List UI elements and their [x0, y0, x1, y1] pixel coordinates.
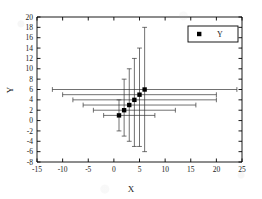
x-tick-label: 5	[138, 165, 142, 174]
x-tick-label: -15	[32, 165, 42, 174]
legend-box[interactable]	[188, 26, 238, 42]
data-point-marker	[142, 87, 146, 91]
data-point-marker	[132, 98, 136, 102]
x-tick-label: -10	[58, 165, 68, 174]
x-tick-label: 10	[161, 165, 169, 174]
y-tick-label: -4	[27, 137, 33, 146]
x-tick-label: 20	[213, 165, 221, 174]
legend-marker-icon	[197, 32, 201, 36]
x-tick-label: 25	[238, 165, 246, 174]
y-tick-label: 16	[26, 33, 34, 42]
x-tick-label: -5	[85, 165, 91, 174]
x-axis-label: X	[128, 184, 135, 194]
y-tick-label: 14	[26, 44, 34, 53]
data-point-marker	[122, 108, 126, 112]
y-tick-label: 10	[26, 64, 34, 73]
legend[interactable]: Y	[188, 26, 238, 42]
x-tick-label: 15	[187, 165, 195, 174]
y-tick-label: -2	[27, 127, 33, 136]
data-point-marker	[117, 113, 121, 117]
y-tick-label: 2	[29, 106, 33, 115]
y-tick-label: 4	[29, 95, 33, 104]
y-tick-label: 20	[26, 13, 34, 22]
y-tick-label: 8	[29, 75, 33, 84]
data-point-marker	[127, 103, 131, 107]
data-point-marker	[137, 92, 141, 96]
x-tick-label: 0	[112, 165, 116, 174]
y-axis-label: Y	[5, 86, 15, 93]
y-tick-label: 0	[29, 116, 33, 125]
y-tick-label: -6	[27, 147, 33, 156]
y-tick-label: 12	[26, 54, 34, 63]
scatter-chart: -15-10-50510152025-8-6-4-202468101214161…	[0, 0, 262, 199]
y-tick-label: 18	[26, 23, 34, 32]
y-tick-label: -8	[27, 158, 33, 167]
legend-label: Y	[217, 30, 223, 39]
y-tick-label: 6	[29, 85, 33, 94]
